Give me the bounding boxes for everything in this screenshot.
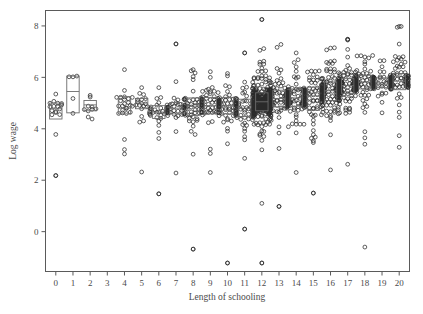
x-tick-label: 11 [240,278,249,288]
x-tick-label: 15 [309,278,319,288]
x-tick-label: 17 [343,278,353,288]
x-tick-label: 14 [292,278,302,288]
x-tick-label: 19 [378,278,388,288]
x-tick-label: 8 [191,278,196,288]
x-tick-label: 16 [326,278,336,288]
figure-container: 02468 01234567891011121314151617181920 L… [0,0,423,314]
x-tick-label: 18 [360,278,370,288]
y-tick-label: 6 [34,73,39,83]
x-tick-label: 10 [223,278,233,288]
x-tick-label: 7 [174,278,179,288]
y-tick-label: 8 [34,21,39,31]
y-tick-label: 4 [34,124,39,134]
x-tick-label: 6 [157,278,162,288]
y-tick-label: 0 [34,227,39,237]
x-tick-label: 4 [122,278,127,288]
x-tick-label: 3 [105,278,110,288]
x-tick-label: 1 [71,278,76,288]
x-tick-label: 13 [275,278,285,288]
x-tick-label: 0 [54,278,59,288]
x-tick-label: 9 [208,278,213,288]
y-axis-title: Log wage [8,122,18,160]
chart-background [0,0,423,314]
x-axis-title: Length of schooling [189,292,266,302]
boxplot-scatter-chart: 02468 01234567891011121314151617181920 L… [0,0,423,314]
x-tick-label: 20 [395,278,405,288]
y-tick-label: 2 [34,175,39,185]
x-tick-label: 2 [88,278,93,288]
x-tick-label: 12 [257,278,266,288]
x-tick-label: 5 [139,278,144,288]
